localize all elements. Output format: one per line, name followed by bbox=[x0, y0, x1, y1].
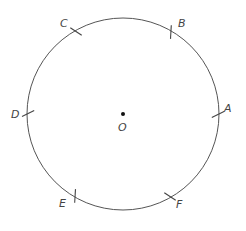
center-label: O bbox=[118, 121, 127, 134]
arc-mark-d bbox=[22, 110, 34, 116]
arc-mark-a bbox=[212, 112, 224, 118]
point-label-b: B bbox=[178, 17, 186, 30]
point-label-c: C bbox=[60, 17, 68, 30]
point-label-d: D bbox=[11, 108, 19, 121]
point-label-a: A bbox=[223, 102, 232, 115]
arc-mark-b bbox=[171, 25, 172, 39]
circle-construction-diagram: O ABCDEF bbox=[0, 0, 246, 231]
point-label-f: F bbox=[176, 198, 183, 211]
arc-mark-e bbox=[75, 189, 76, 203]
arc-mark-f bbox=[164, 193, 175, 201]
center-point bbox=[121, 112, 125, 116]
arc-mark-c bbox=[70, 28, 81, 36]
point-label-e: E bbox=[59, 197, 66, 210]
